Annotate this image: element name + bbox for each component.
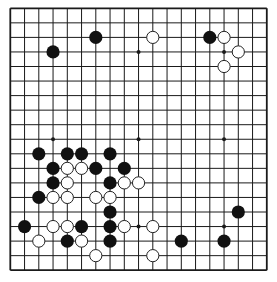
star-point	[222, 50, 226, 54]
white-stone	[61, 162, 73, 174]
black-stone	[232, 205, 245, 218]
black-stone	[46, 45, 59, 58]
black-stone	[75, 147, 88, 160]
white-stone	[75, 235, 87, 247]
black-stone	[103, 220, 116, 233]
star-point	[222, 137, 226, 141]
black-stone	[32, 191, 45, 204]
go-board[interactable]	[0, 0, 277, 282]
white-stone	[147, 220, 159, 232]
black-stone	[103, 205, 116, 218]
star-point	[222, 225, 226, 229]
black-stone	[89, 162, 102, 175]
white-stone	[104, 191, 116, 203]
white-stone	[232, 46, 244, 58]
star-point	[137, 225, 141, 229]
black-stone	[75, 220, 88, 233]
black-stone	[18, 220, 31, 233]
white-stone	[147, 31, 159, 43]
black-stone	[203, 31, 216, 44]
star-point	[137, 137, 141, 141]
white-stone	[47, 220, 59, 232]
star-point	[51, 137, 55, 141]
white-stone	[118, 220, 130, 232]
white-stone	[147, 250, 159, 262]
black-stone	[89, 31, 102, 44]
white-stone	[90, 250, 102, 262]
black-stone	[118, 162, 131, 175]
white-stone	[61, 177, 73, 189]
white-stone	[90, 191, 102, 203]
black-stone	[175, 235, 188, 248]
white-stone	[75, 162, 87, 174]
stones-layer[interactable]	[18, 31, 245, 262]
black-stone	[103, 176, 116, 189]
black-stone	[103, 147, 116, 160]
black-stone	[32, 147, 45, 160]
black-stone	[217, 235, 230, 248]
white-stone	[33, 235, 45, 247]
white-stone	[118, 177, 130, 189]
white-stone	[61, 220, 73, 232]
star-point	[137, 50, 141, 54]
black-stone	[46, 176, 59, 189]
black-stone	[46, 162, 59, 175]
black-stone	[103, 235, 116, 248]
white-stone	[218, 60, 230, 72]
black-stone	[61, 235, 74, 248]
white-stone	[132, 177, 144, 189]
white-stone	[218, 31, 230, 43]
white-stone	[61, 191, 73, 203]
black-stone	[61, 147, 74, 160]
white-stone	[47, 191, 59, 203]
